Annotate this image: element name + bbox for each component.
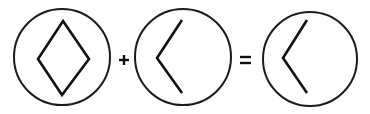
term-2-chevron: [135, 9, 231, 105]
plus-operator: [119, 55, 129, 65]
left-chevron-icon: [283, 20, 307, 93]
left-chevron-icon: [157, 20, 182, 93]
term-2-circle: [135, 9, 231, 105]
result-circle: [263, 12, 357, 106]
result-chevron: [263, 12, 357, 106]
equation-canvas: [0, 0, 370, 114]
equals-operator: [240, 57, 251, 63]
diamond-icon: [38, 21, 89, 95]
term-1-diamond: [14, 9, 110, 105]
